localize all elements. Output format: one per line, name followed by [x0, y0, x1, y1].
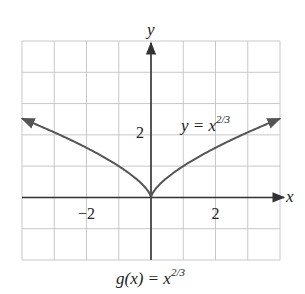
caption-func: g(x) = x	[116, 269, 171, 288]
y-tick-label: 2	[136, 124, 144, 141]
curve-label: y = x2/3	[179, 113, 231, 135]
axes	[22, 43, 284, 260]
chart: −222 x y y = x2/3 g(x) = x2/3	[0, 0, 305, 294]
caption-exp: 2/3	[171, 266, 186, 278]
curve-label-base: y = x	[179, 116, 217, 135]
y-axis-label: y	[145, 20, 155, 39]
curve-label-exp: 2/3	[216, 113, 231, 125]
tick-labels: −222	[78, 124, 220, 223]
x-tick-label: −2	[78, 205, 95, 222]
x-tick-label: 2	[212, 205, 220, 222]
x-axis-label: x	[285, 187, 294, 206]
chart-caption: g(x) = x2/3	[116, 266, 185, 288]
